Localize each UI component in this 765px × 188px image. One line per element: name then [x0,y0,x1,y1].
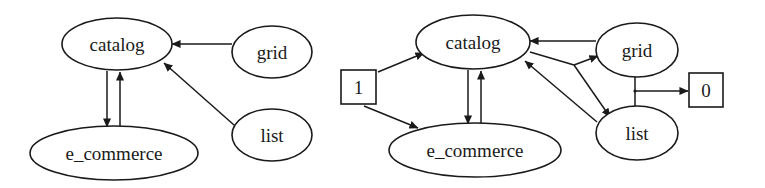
right-node-catalog: catalog [416,15,530,69]
right-node-box-1: 1 [341,70,376,104]
right-node-grid: grid [596,23,678,77]
node-label: catalog [446,32,501,53]
left-node-list: list [232,109,312,161]
edge-branch-to-grid [574,56,598,65]
left-node-grid: grid [232,26,312,78]
left-diagram: catalog grid list e_commerce [30,18,312,180]
node-label: e_commerce [426,140,523,161]
node-label: list [625,123,649,144]
node-label: e_commerce [65,143,162,164]
right-diagram: 1 catalog grid list e_commerce 0 [341,15,723,177]
left-node-catalog: catalog [62,18,172,70]
edge-list-to-catalog [525,61,597,122]
right-node-box-0: 0 [689,73,723,107]
right-node-list: list [596,106,678,160]
node-label: 0 [701,80,711,101]
node-label: catalog [90,34,145,55]
edge-1-to-catalog [378,53,424,72]
node-label: grid [257,42,288,63]
node-label: 1 [354,77,364,98]
edge-1-to-ecommerce [364,106,418,128]
diagram-canvas: catalog grid list e_commerce [0,0,765,188]
node-label: grid [622,40,653,61]
right-node-e-commerce: e_commerce [389,123,561,177]
edge-list-to-catalog [164,63,234,125]
edge-catalog-to-branch [530,52,574,65]
node-label: list [260,125,284,146]
left-node-e-commerce: e_commerce [30,126,198,180]
edge-branch-to-list [574,65,610,117]
